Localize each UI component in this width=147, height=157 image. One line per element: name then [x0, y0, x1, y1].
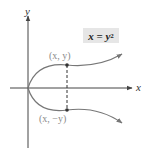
- y-axis-label: y: [25, 6, 30, 17]
- equation-rhs-exp: 2: [110, 32, 114, 40]
- point-upper: [65, 63, 69, 67]
- equation-label: x = y 2: [83, 28, 119, 43]
- lower-point-label: (x, −y): [39, 114, 66, 124]
- parabola-upper-branch: [28, 54, 122, 88]
- point-lower: [65, 108, 69, 112]
- x-axis-label: x: [136, 82, 141, 93]
- parabola-diagram: [0, 0, 147, 157]
- equation-equals: =: [94, 30, 106, 42]
- upper-point-label: (x, y): [49, 51, 71, 61]
